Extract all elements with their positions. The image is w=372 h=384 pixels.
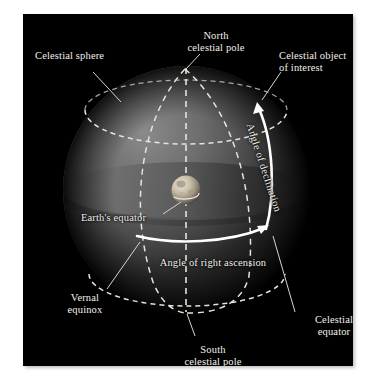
- earth-surface-mottle-2: [187, 189, 194, 194]
- leader-south-pole: [187, 314, 195, 336]
- earth-surface-mottle-1: [177, 181, 186, 188]
- celestial-sphere-figure: Celestial sphere North celestial pole Ce…: [0, 0, 372, 384]
- diagram-panel: Celestial sphere North celestial pole Ce…: [23, 14, 353, 366]
- earth-globe: [172, 176, 201, 205]
- earth-surface-mottle-3: [179, 192, 185, 196]
- leader-celestial-object: [262, 72, 281, 100]
- diagram-canvas: [23, 14, 353, 366]
